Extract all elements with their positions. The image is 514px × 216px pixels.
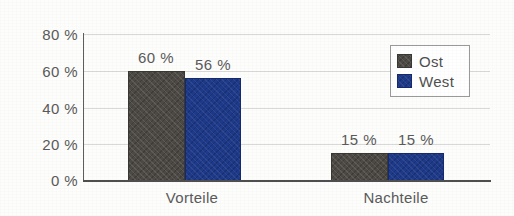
bar-nachteile-ost — [331, 153, 388, 181]
x-tick-vorteile: Vorteile — [166, 189, 218, 206]
legend-label-ost: Ost — [419, 54, 443, 69]
legend-item-ost: Ost — [397, 51, 463, 71]
bar-nachteile-west — [388, 153, 444, 181]
x-tick-nachteile: Nachteile — [363, 189, 428, 206]
y-tick-60: 60 % — [4, 63, 78, 80]
x-axis-line — [83, 180, 491, 182]
value-label-vorteile-ost: 60 % — [138, 49, 174, 66]
legend-swatch-ost-icon — [397, 54, 412, 68]
y-tick-20: 20 % — [4, 136, 78, 153]
legend-label-west: West — [419, 74, 454, 89]
bar-vorteile-west — [185, 78, 241, 181]
y-tick-40: 40 % — [4, 100, 78, 117]
legend: Ost West — [390, 45, 470, 97]
y-axis-line — [83, 33, 84, 182]
value-label-vorteile-west: 56 % — [195, 56, 231, 73]
y-axis-labels: 80 % 60 % 40 % 20 % 0 % — [0, 0, 78, 216]
bar-vorteile-ost — [128, 71, 185, 181]
legend-item-west: West — [397, 71, 463, 91]
value-label-nachteile-ost: 15 % — [341, 131, 377, 148]
gridline-80 — [83, 34, 490, 35]
legend-swatch-west-icon — [397, 74, 412, 88]
bar-chart: 80 % 60 % 40 % 20 % 0 % 60 % 56 % 15 % 1… — [0, 0, 514, 216]
y-tick-80: 80 % — [4, 26, 78, 43]
value-label-nachteile-west: 15 % — [398, 131, 434, 148]
y-tick-0: 0 % — [4, 172, 78, 189]
